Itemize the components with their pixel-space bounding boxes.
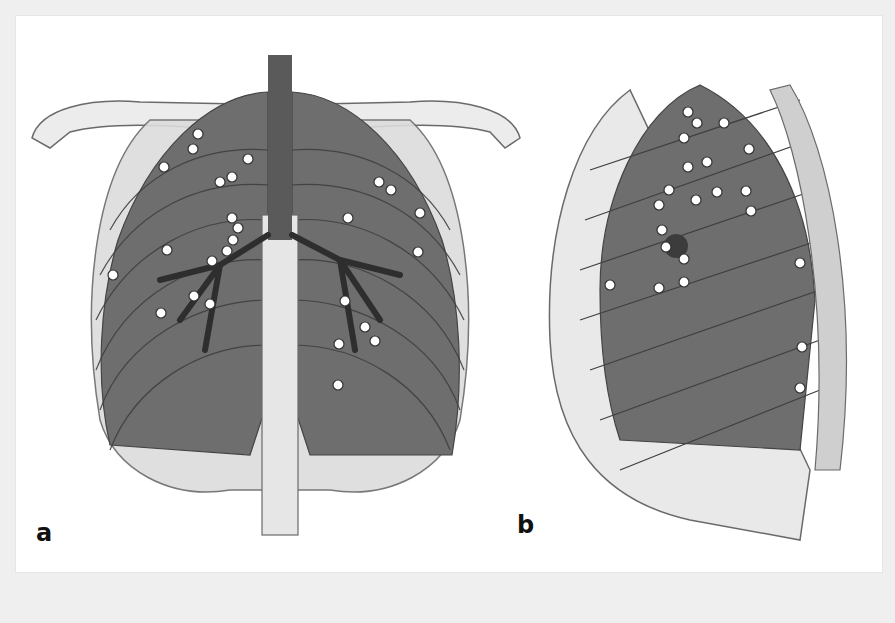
lymph-node-dot xyxy=(654,200,664,210)
lymph-node-dot xyxy=(205,299,215,309)
lymph-node-dot xyxy=(679,254,689,264)
trachea xyxy=(268,55,292,240)
lymph-node-dot xyxy=(795,383,805,393)
lymph-node-dot xyxy=(360,322,370,332)
lymph-node-dot xyxy=(193,129,203,139)
lymph-node-dot xyxy=(333,380,343,390)
lymph-node-dot xyxy=(233,223,243,233)
lymph-node-dot xyxy=(340,296,350,306)
panel-label-a: a xyxy=(36,521,52,545)
sternum-spine xyxy=(262,215,298,535)
lymph-node-dot xyxy=(661,242,671,252)
lateral-view xyxy=(549,85,846,540)
lymph-node-dot xyxy=(207,256,217,266)
lymph-node-dot xyxy=(692,118,702,128)
lymph-node-dot xyxy=(188,144,198,154)
chest-illustration xyxy=(0,0,895,623)
lymph-node-dot xyxy=(222,246,232,256)
lymph-node-dot xyxy=(343,213,353,223)
lymph-node-dot xyxy=(189,291,199,301)
lymph-node-dot xyxy=(334,339,344,349)
lymph-node-dot xyxy=(683,107,693,117)
lymph-node-dot xyxy=(683,162,693,172)
lymph-node-dot xyxy=(691,195,701,205)
lymph-node-dot xyxy=(227,172,237,182)
lymph-node-dot xyxy=(654,283,664,293)
lymph-node-dot xyxy=(797,342,807,352)
lymph-node-dot xyxy=(712,187,722,197)
lymph-node-dot xyxy=(746,206,756,216)
lymph-node-dot xyxy=(413,247,423,257)
lymph-node-dot xyxy=(605,280,615,290)
lymph-node-dot xyxy=(702,157,712,167)
lymph-node-dot xyxy=(159,162,169,172)
lymph-node-dot xyxy=(162,245,172,255)
lymph-node-dot xyxy=(374,177,384,187)
lymph-node-dot xyxy=(741,186,751,196)
lymph-node-dot xyxy=(679,277,689,287)
panel-label-b: b xyxy=(517,513,534,537)
lymph-node-dot xyxy=(228,235,238,245)
lymph-node-dot xyxy=(370,336,380,346)
lymph-node-dot xyxy=(679,133,689,143)
lymph-node-dot xyxy=(657,225,667,235)
lymph-node-dot xyxy=(415,208,425,218)
lymph-node-dot xyxy=(386,185,396,195)
lymph-node-dot xyxy=(156,308,166,318)
lymph-node-dot xyxy=(215,177,225,187)
lymph-node-dot xyxy=(795,258,805,268)
lymph-node-dot xyxy=(227,213,237,223)
frontal-view xyxy=(32,55,520,535)
lymph-node-dot xyxy=(108,270,118,280)
lymph-node-dot xyxy=(243,154,253,164)
lymph-node-dot xyxy=(719,118,729,128)
left-lung xyxy=(292,92,459,455)
lymph-node-dot xyxy=(744,144,754,154)
lymph-node-dot xyxy=(664,185,674,195)
